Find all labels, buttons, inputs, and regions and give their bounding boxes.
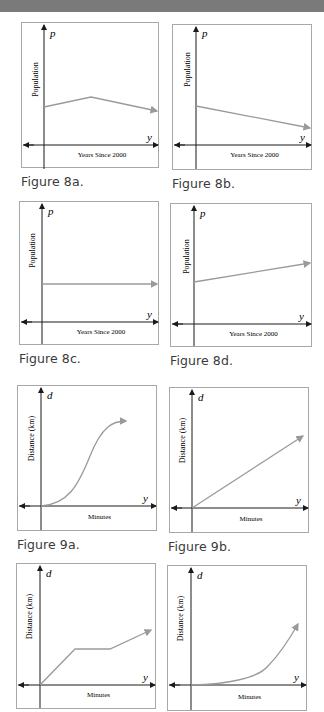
horizontal-var-label: y bbox=[294, 671, 299, 683]
curve bbox=[44, 97, 157, 111]
graph-8c-svg bbox=[20, 202, 160, 346]
x-axis-label: Minutes bbox=[192, 515, 310, 523]
curve bbox=[194, 263, 310, 282]
x-axis-label: Minutes bbox=[41, 513, 158, 521]
y-axis-label: Population bbox=[182, 227, 191, 287]
graph-8d-svg bbox=[171, 204, 313, 348]
y-axis-label: Population bbox=[28, 221, 37, 281]
figure-8d-graph: p y Population Years Since 2000 bbox=[170, 203, 312, 347]
x-axis-label: Minutes bbox=[40, 691, 157, 699]
x-axis-label: Years Since 2000 bbox=[196, 151, 313, 159]
x-axis-label: Minutes bbox=[191, 693, 308, 701]
y-axis-label: Population bbox=[183, 40, 192, 100]
figure-9c-graph: d y Distance (km) Minutes bbox=[16, 563, 156, 709]
figure-9b-graph: d y Distance (km) Minutes bbox=[169, 387, 309, 533]
figure-9a-graph: d y Distance (km) Minutes bbox=[17, 385, 157, 531]
vertical-var-label: p bbox=[48, 205, 54, 217]
x-axis-label: Years Since 2000 bbox=[44, 151, 160, 159]
y-axis-label: Population bbox=[31, 50, 40, 110]
figure-caption-8a: Figure 8a. bbox=[21, 174, 84, 189]
figure-caption-8b: Figure 8b. bbox=[172, 176, 235, 191]
y-axis-label: Distance (km) bbox=[176, 587, 185, 651]
x-axis-label: Years Since 2000 bbox=[194, 330, 313, 338]
vertical-var-label: d bbox=[47, 389, 53, 401]
figure-caption-8c: Figure 8c. bbox=[19, 351, 81, 366]
curve bbox=[41, 421, 126, 506]
horizontal-var-label: y bbox=[143, 492, 148, 504]
curve bbox=[192, 436, 303, 508]
vertical-var-label: d bbox=[46, 567, 52, 579]
horizontal-var-label: y bbox=[147, 308, 152, 320]
graph-8b-svg bbox=[173, 25, 313, 171]
horizontal-var-label: y bbox=[296, 494, 301, 506]
figure-caption-8d: Figure 8d. bbox=[170, 353, 233, 368]
y-axis-label: Distance (km) bbox=[27, 407, 36, 471]
vertical-var-label: d bbox=[198, 391, 204, 403]
top-bar bbox=[0, 0, 324, 12]
graph-8a-svg bbox=[22, 23, 160, 169]
figure-8a-graph: p y Population Years Since 2000 bbox=[21, 22, 159, 168]
figure-8b-graph: p y Population Years Since 2000 bbox=[172, 24, 312, 170]
horizontal-var-label: y bbox=[300, 131, 305, 143]
figure-8c-graph: p y Population Years Since 2000 bbox=[19, 201, 159, 345]
y-axis-label: Distance (km) bbox=[178, 409, 187, 473]
horizontal-var-label: y bbox=[299, 310, 304, 322]
curve bbox=[40, 630, 151, 685]
curve bbox=[196, 106, 310, 128]
curve bbox=[191, 624, 298, 685]
graph-9c-svg bbox=[17, 564, 157, 710]
horizontal-var-label: y bbox=[143, 671, 148, 683]
graph-9d-svg bbox=[168, 566, 308, 712]
vertical-var-label: d bbox=[197, 569, 203, 581]
graph-9a-svg bbox=[18, 386, 158, 532]
vertical-var-label: p bbox=[200, 207, 206, 219]
figure-caption-9a: Figure 9a. bbox=[17, 537, 80, 552]
x-axis-label: Years Since 2000 bbox=[42, 328, 160, 336]
figure-caption-9b: Figure 9b. bbox=[168, 539, 231, 554]
y-axis-label: Distance (km) bbox=[25, 585, 34, 649]
graph-9b-svg bbox=[170, 388, 310, 534]
horizontal-var-label: y bbox=[147, 131, 152, 143]
vertical-var-label: p bbox=[202, 27, 208, 39]
vertical-var-label: p bbox=[50, 27, 56, 39]
figure-9d-graph: d y Distance (km) Minutes bbox=[167, 565, 307, 711]
